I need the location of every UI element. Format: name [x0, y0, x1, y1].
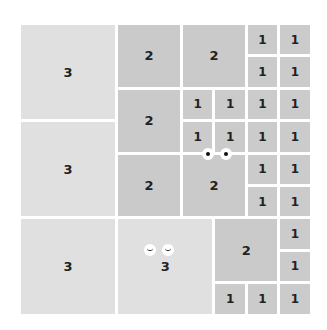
- tile-1[interactable]: 1: [215, 284, 244, 313]
- smile-icon: [147, 247, 153, 251]
- tile-1[interactable]: 1: [248, 187, 277, 216]
- tile-1[interactable]: 1: [280, 122, 309, 151]
- tile-1[interactable]: 1: [280, 57, 309, 86]
- tile-2[interactable]: 2: [183, 155, 245, 217]
- pupil-icon: [206, 152, 210, 156]
- tile-3[interactable]: 3: [21, 219, 115, 313]
- pupil-icon: [224, 152, 228, 156]
- tile-1[interactable]: 1: [280, 90, 309, 119]
- tile-1[interactable]: 1: [215, 90, 244, 119]
- tile-1[interactable]: 1: [280, 252, 309, 281]
- smile-icon: [165, 247, 171, 251]
- tile-3[interactable]: 3: [21, 122, 115, 216]
- tile-1[interactable]: 1: [248, 25, 277, 54]
- tile-1[interactable]: 1: [248, 284, 277, 313]
- tile-3[interactable]: 3: [21, 25, 115, 119]
- tile-1[interactable]: 1: [248, 122, 277, 151]
- tile-1[interactable]: 1: [280, 25, 309, 54]
- open-eye-icon: [220, 148, 232, 160]
- open-eye-icon: [202, 148, 214, 160]
- tile-1[interactable]: 1: [248, 90, 277, 119]
- tile-2[interactable]: 2: [183, 25, 245, 87]
- tile-2[interactable]: 2: [118, 25, 180, 87]
- tile-2[interactable]: 2: [118, 90, 180, 152]
- tile-1[interactable]: 1: [280, 187, 309, 216]
- tile-1[interactable]: 1: [215, 122, 244, 151]
- tile-2[interactable]: 2: [215, 219, 277, 281]
- happy-eye-icon: [162, 244, 174, 256]
- tile-1[interactable]: 1: [248, 57, 277, 86]
- tile-1[interactable]: 1: [248, 155, 277, 184]
- tile-1[interactable]: 1: [183, 90, 212, 119]
- tile-2[interactable]: 2: [118, 155, 180, 217]
- tile-1[interactable]: 1: [280, 155, 309, 184]
- happy-eye-icon: [144, 244, 156, 256]
- tile-1[interactable]: 1: [280, 284, 309, 313]
- game-board: 3332211112111111112211113211111: [21, 25, 311, 317]
- tile-3[interactable]: 3: [118, 219, 212, 313]
- tile-1[interactable]: 1: [280, 219, 309, 248]
